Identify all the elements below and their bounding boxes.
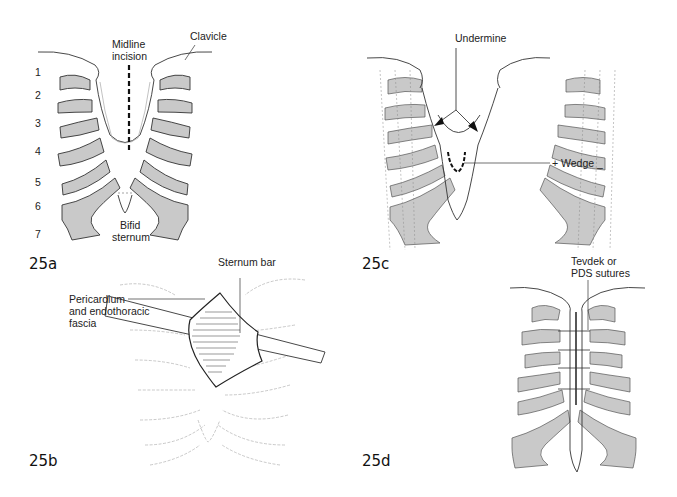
label-endothoracic: and endothoracic xyxy=(69,305,150,317)
figure-label-25b: 25b xyxy=(29,452,58,470)
label-sternum-bar: Sternum bar xyxy=(218,256,276,268)
suture-closure-illustration-25d xyxy=(350,250,677,497)
label-clavicle: Clavicle xyxy=(190,30,227,42)
label-undermine: Undermine xyxy=(455,32,506,44)
panel-25a: Midline incision Clavicle Bifid sternum … xyxy=(0,0,250,260)
label-pds-sutures: PDS sutures xyxy=(571,267,630,279)
figure-label-25d: 25d xyxy=(362,452,391,470)
label-sternum: sternum xyxy=(112,231,150,243)
rib-number-6: 6 xyxy=(35,200,41,212)
rib-number-3: 3 xyxy=(35,117,41,129)
panel-25d: Tevdek or PDS sutures 25d xyxy=(350,250,677,497)
rib-number-5: 5 xyxy=(35,176,41,188)
label-fascia: fascia xyxy=(69,317,96,329)
undermine-illustration-25c xyxy=(350,0,677,260)
rib-number-2: 2 xyxy=(35,89,41,101)
label-incision: incision xyxy=(112,50,147,62)
label-midline: Midline xyxy=(112,38,145,50)
label-tevdek: Tevdek or xyxy=(571,255,617,267)
panel-25b: Sternum bar Pericardium and endothoracic… xyxy=(0,260,350,497)
rib-number-7: 7 xyxy=(35,228,41,240)
label-pericardium: Pericardium xyxy=(69,293,125,305)
label-wedge: + Wedge _ xyxy=(552,157,603,169)
panel-25c: Undermine + Wedge _ 25c xyxy=(350,0,677,260)
rib-number-4: 4 xyxy=(35,145,41,157)
rib-number-1: 1 xyxy=(35,66,41,78)
label-bifid: Bifid xyxy=(120,219,140,231)
